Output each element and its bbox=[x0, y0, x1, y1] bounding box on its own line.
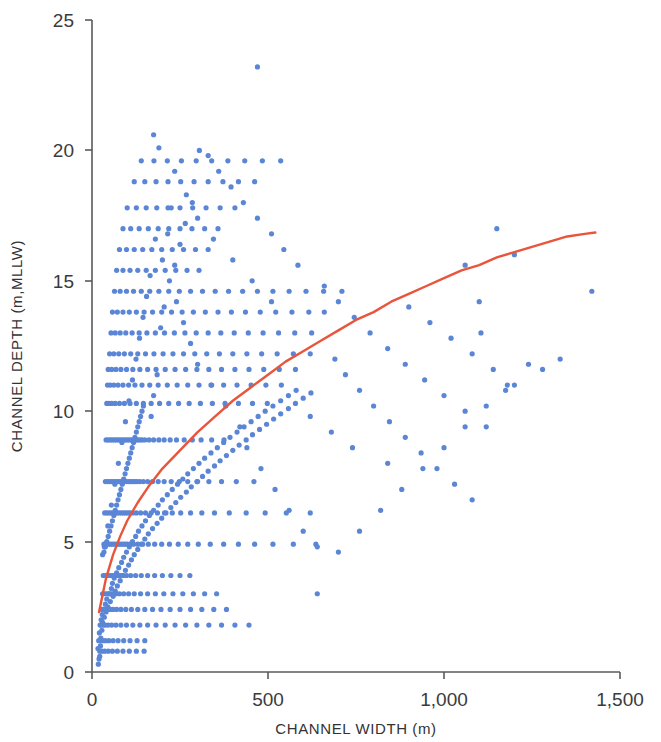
scatter-point bbox=[177, 226, 182, 231]
scatter-point bbox=[142, 536, 147, 541]
scatter-point bbox=[146, 437, 151, 442]
scatter-point bbox=[143, 351, 148, 356]
scatter-point bbox=[279, 383, 284, 388]
scatter-point bbox=[203, 310, 208, 315]
scatter-point bbox=[172, 367, 177, 372]
scatter-point bbox=[419, 450, 424, 455]
scatter-point bbox=[133, 534, 138, 539]
scatter-point bbox=[153, 622, 158, 627]
scatter-point bbox=[161, 591, 166, 596]
scatter-point bbox=[252, 542, 257, 547]
scatter-point bbox=[194, 330, 199, 335]
scatter-point bbox=[195, 362, 200, 367]
x-tick-label-1000: 1,000 bbox=[420, 689, 468, 710]
scatter-point bbox=[185, 479, 190, 484]
scatter-point bbox=[144, 205, 149, 210]
scatter-point bbox=[127, 310, 132, 315]
scatter-point bbox=[135, 607, 140, 612]
scatter-point bbox=[199, 510, 204, 515]
scatter-point bbox=[151, 351, 156, 356]
scatter-point bbox=[169, 479, 174, 484]
scatter-point bbox=[215, 445, 220, 450]
scatter-point bbox=[200, 474, 205, 479]
scatter-point bbox=[269, 299, 274, 304]
scatter-point bbox=[292, 330, 297, 335]
scatter-point bbox=[127, 268, 132, 273]
scatter-point bbox=[146, 226, 151, 231]
scatter-point bbox=[137, 622, 142, 627]
scatter-point bbox=[255, 64, 260, 69]
scatter-point bbox=[112, 289, 117, 294]
scatter-point bbox=[165, 231, 170, 236]
scatter-point bbox=[187, 401, 192, 406]
scatter-point bbox=[114, 502, 119, 507]
scatter-point bbox=[132, 383, 137, 388]
scatter-point bbox=[130, 377, 135, 382]
scatter-point bbox=[157, 401, 162, 406]
scatter-point bbox=[124, 247, 129, 252]
scatter-point bbox=[96, 662, 101, 667]
scatter-point bbox=[385, 461, 390, 466]
scatter-point bbox=[147, 273, 152, 278]
scatter-point bbox=[208, 450, 213, 455]
scatter-point bbox=[160, 573, 165, 578]
scatter-point bbox=[301, 529, 306, 534]
scatter-point bbox=[119, 560, 124, 565]
scatter-point bbox=[123, 330, 128, 335]
scatter-point bbox=[155, 521, 160, 526]
scatter-point bbox=[203, 205, 208, 210]
scatter-point bbox=[156, 383, 161, 388]
scatter-point bbox=[110, 581, 115, 586]
scatter-point bbox=[113, 622, 118, 627]
scatter-point bbox=[177, 573, 182, 578]
scatter-point bbox=[143, 518, 148, 523]
scatter-point bbox=[308, 414, 313, 419]
scatter-point bbox=[243, 310, 248, 315]
scatter-point bbox=[183, 622, 188, 627]
scatter-point bbox=[236, 401, 241, 406]
scatter-point bbox=[176, 542, 181, 547]
scatter-point bbox=[258, 310, 263, 315]
scatter-point bbox=[140, 542, 145, 547]
scatter-point bbox=[227, 510, 232, 515]
scatter-point bbox=[146, 531, 151, 536]
scatter-point bbox=[147, 383, 152, 388]
scatter-point bbox=[98, 643, 103, 648]
scatter-point bbox=[244, 437, 249, 442]
scatter-point bbox=[132, 591, 137, 596]
scatter-point bbox=[257, 427, 262, 432]
scatter-point bbox=[159, 247, 164, 252]
scatter-point bbox=[189, 226, 194, 231]
scatter-point bbox=[168, 505, 173, 510]
scatter-point bbox=[208, 542, 213, 547]
scatter-point bbox=[126, 562, 131, 567]
scatter-point bbox=[172, 330, 177, 335]
scatter-point bbox=[128, 573, 133, 578]
scatter-point bbox=[151, 437, 156, 442]
scatter-point bbox=[175, 383, 180, 388]
scatter-point bbox=[178, 510, 183, 515]
scatter-point bbox=[162, 330, 167, 335]
scatter-point bbox=[127, 638, 132, 643]
scatter-point bbox=[184, 268, 189, 273]
scatter-point bbox=[293, 367, 298, 372]
scatter-point bbox=[202, 226, 207, 231]
scatter-point bbox=[106, 534, 111, 539]
scatter-point bbox=[129, 607, 134, 612]
scatter-point bbox=[452, 482, 457, 487]
scatter-point bbox=[121, 591, 126, 596]
scatter-point bbox=[114, 268, 119, 273]
scatter-point bbox=[287, 289, 292, 294]
scatter-point bbox=[196, 268, 201, 273]
scatter-point bbox=[130, 445, 135, 450]
scatter-point bbox=[206, 330, 211, 335]
scatter-point bbox=[441, 445, 446, 450]
scatter-point bbox=[130, 330, 135, 335]
scatter-point bbox=[124, 466, 129, 471]
scatter-point bbox=[102, 544, 107, 549]
scatter-point bbox=[177, 289, 182, 294]
scatter-point bbox=[209, 158, 214, 163]
scatter-point bbox=[168, 607, 173, 612]
scatter-point bbox=[180, 310, 185, 315]
scatter-point bbox=[526, 362, 531, 367]
